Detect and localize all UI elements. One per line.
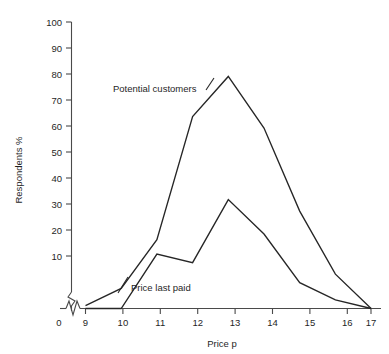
line-chart-plot: 100 90 80 70 60 50 40 30 20 10 Responden… xyxy=(0,0,389,354)
x-tick-label-12: 12 xyxy=(192,317,203,328)
y-tick-label-90: 90 xyxy=(51,43,62,54)
y-tick-label-20: 20 xyxy=(51,225,62,236)
x-axis-title: Price p xyxy=(207,338,237,349)
y-tick-label-80: 80 xyxy=(51,69,62,80)
annotation-label-price-last-paid: Price last paid xyxy=(131,282,191,293)
y-tick-label-10: 10 xyxy=(51,251,62,262)
series-line-price-last-paid xyxy=(86,200,372,309)
x-tick-label-15: 15 xyxy=(305,317,316,328)
annotation-leader-price-last-paid xyxy=(118,277,128,293)
x-tick-label-9: 9 xyxy=(83,317,88,328)
y-axis: 100 90 80 70 60 50 40 30 20 10 Responden… xyxy=(13,17,75,312)
x-tick-label-0: 0 xyxy=(56,317,61,328)
y-tick-label-100: 100 xyxy=(46,17,62,28)
y-tick-label-40: 40 xyxy=(51,173,62,184)
x-tick-label-17: 17 xyxy=(366,317,377,328)
annotation-potential-customers: Potential customers xyxy=(113,78,214,94)
annotation-price-last-paid: Price last paid xyxy=(118,277,191,293)
series-line-potential-customers xyxy=(86,76,372,308)
x-tick-label-10: 10 xyxy=(118,317,129,328)
x-tick-label-14: 14 xyxy=(267,317,278,328)
y-axis-title: Respondents % xyxy=(13,136,24,204)
y-tick-label-30: 30 xyxy=(51,199,62,210)
x-tick-label-13: 13 xyxy=(230,317,241,328)
y-tick-label-50: 50 xyxy=(51,147,62,158)
chart-figure: 100 90 80 70 60 50 40 30 20 10 Responden… xyxy=(0,0,389,354)
x-tick-label-16: 16 xyxy=(342,317,353,328)
annotation-leader-potential-customers xyxy=(206,78,214,90)
y-tick-label-70: 70 xyxy=(51,95,62,106)
x-tick-label-11: 11 xyxy=(155,317,165,328)
annotation-label-potential-customers: Potential customers xyxy=(113,83,197,94)
y-tick-label-60: 60 xyxy=(51,121,62,132)
